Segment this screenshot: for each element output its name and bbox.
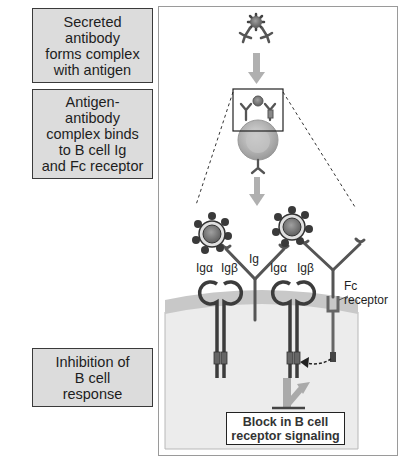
- ig-alpha-label-1: Igα: [196, 261, 213, 275]
- fc-receptor-label-2: receptor: [344, 293, 388, 307]
- ig-beta-label-2: Igβ: [297, 261, 314, 275]
- outcome-box: Block in B cell receptor signaling: [226, 412, 345, 445]
- antigen-antibody-complex-icon: [240, 14, 272, 42]
- arrow-down-icon: [248, 53, 265, 84]
- ig-beta-label-1: Igβ: [221, 261, 238, 275]
- fc-receptor-label-1: Fc: [344, 279, 357, 293]
- b-cell-diagram: Ig Igα Igβ Igα Igβ Fc receptor: [0, 0, 401, 457]
- b-cell-icon: [233, 89, 283, 173]
- ig-alpha-label-2: Igα: [270, 261, 287, 275]
- arrow-down-icon-2: [249, 177, 265, 206]
- ig-label: Ig: [249, 252, 259, 266]
